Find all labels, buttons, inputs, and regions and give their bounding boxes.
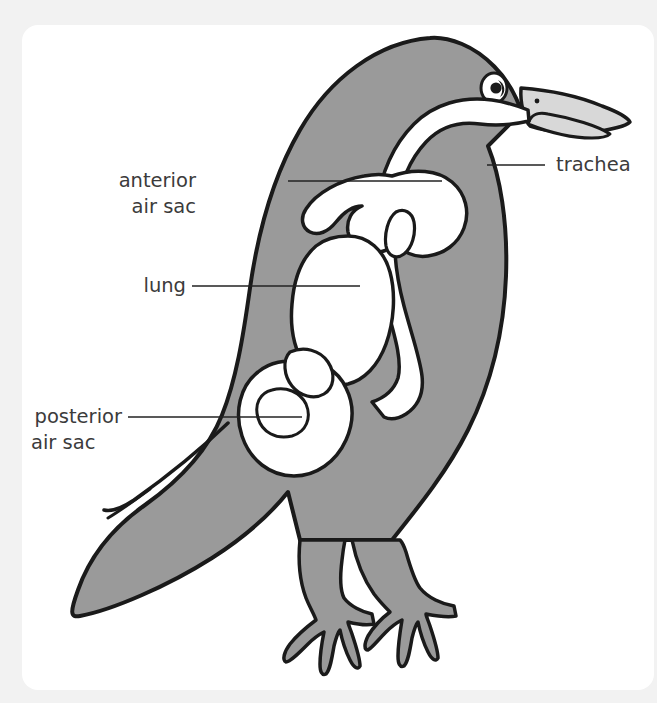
label-anterior-air-sac-line2: air sac (132, 195, 196, 218)
label-lung: lung (143, 274, 186, 297)
label-posterior-air-sac-line2: air sac (31, 431, 95, 454)
eye-pupil-dot (490, 82, 501, 93)
label-posterior-air-sac-line1: posterior (35, 405, 123, 428)
label-anterior-air-sac-line1: anterior (119, 169, 197, 192)
beak (521, 88, 630, 138)
abdominal-air-sac-wedge (257, 389, 309, 437)
leg-right (352, 540, 456, 667)
bird-respiratory-diagram: anterior air sac lung posterior air sac … (0, 0, 657, 703)
legs (284, 540, 456, 675)
beak-nostril-icon (535, 99, 540, 104)
label-trachea: trachea (556, 153, 631, 176)
